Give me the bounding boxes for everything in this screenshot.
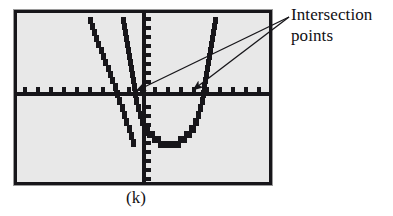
parabola-curve [121, 17, 218, 148]
figure-container: Intersection points (k) [0, 0, 393, 216]
intersection-points-label-line-1: Intersection [291, 5, 393, 26]
y-axis-ticks [146, 17, 151, 181]
y-axis [142, 13, 146, 182]
calculator-screen [14, 10, 272, 185]
intersection-points-label-line-2: points [291, 26, 393, 47]
figure-caption: (k) [0, 188, 272, 208]
intersection-points-label: Intersection points [291, 5, 393, 46]
plot-canvas [17, 13, 269, 182]
